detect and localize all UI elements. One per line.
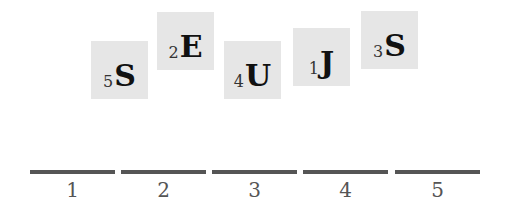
slot-4-label: 4 xyxy=(303,178,388,202)
tile-letter: J xyxy=(320,48,334,78)
slot-2[interactable] xyxy=(121,170,206,174)
tile-U-4[interactable]: 4 U xyxy=(224,41,281,99)
tile-letter: U xyxy=(245,61,271,91)
tile-number: 5 xyxy=(103,74,113,90)
tile-letter: S xyxy=(384,31,406,61)
tile-letter: S xyxy=(114,61,136,91)
slot-2-label: 2 xyxy=(121,178,206,202)
slot-1-label: 1 xyxy=(30,178,115,202)
slot-5[interactable] xyxy=(395,170,480,174)
tile-J-1[interactable]: 1 J xyxy=(293,28,350,86)
slot-3-label: 3 xyxy=(212,178,297,202)
slot-1[interactable] xyxy=(30,170,115,174)
tile-S-5[interactable]: 5 S xyxy=(91,41,148,99)
tile-S-3[interactable]: 3 S xyxy=(361,11,418,69)
tile-number: 4 xyxy=(234,74,244,90)
slot-3[interactable] xyxy=(212,170,297,174)
tile-number: 3 xyxy=(373,44,383,60)
tile-number: 1 xyxy=(309,61,319,77)
slot-5-label: 5 xyxy=(395,178,480,202)
tile-letter: E xyxy=(180,32,203,62)
tile-E-2[interactable]: 2 E xyxy=(157,12,214,70)
tile-number: 2 xyxy=(168,45,178,61)
slot-4[interactable] xyxy=(303,170,388,174)
